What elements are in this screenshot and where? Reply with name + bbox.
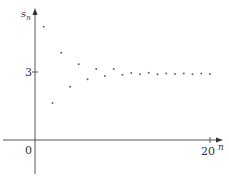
data-point (60, 52, 62, 54)
data-points (43, 26, 211, 104)
data-point (87, 78, 89, 80)
data-point (139, 73, 141, 75)
data-point (113, 68, 115, 70)
labels: sn 3 0 20 n (21, 8, 224, 158)
data-point (165, 73, 167, 75)
data-point (200, 73, 202, 75)
data-point (209, 73, 211, 75)
y-axis-arrow-icon (33, 8, 38, 15)
y-axis-label: sn (21, 8, 31, 22)
data-point (157, 73, 159, 75)
data-point (192, 73, 194, 75)
x-axis-label: n (218, 142, 224, 152)
data-point (43, 26, 45, 28)
data-point (95, 68, 97, 70)
data-point (78, 63, 80, 65)
axes (3, 8, 223, 174)
data-point (174, 73, 176, 75)
data-point (122, 74, 124, 76)
y-tick-label-3: 3 (25, 66, 32, 79)
data-point (130, 72, 132, 74)
data-point (52, 102, 54, 104)
x-tick-label-20: 20 (201, 145, 215, 158)
data-point (104, 75, 106, 77)
x-tick-label-0: 0 (25, 144, 32, 157)
data-point (69, 86, 71, 88)
data-point (148, 72, 150, 74)
chart: sn 3 0 20 n (0, 0, 229, 186)
data-point (183, 73, 185, 75)
